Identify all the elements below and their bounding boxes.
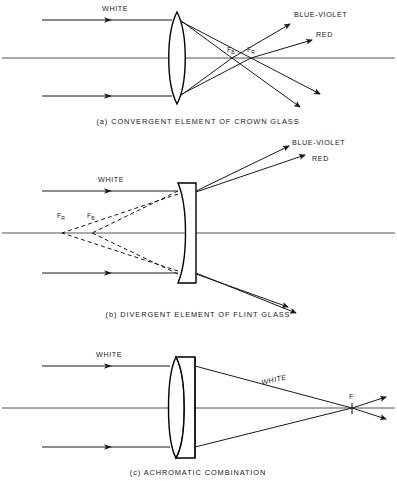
- label-blue-violet-b: BLUE-VIOLET: [292, 138, 345, 147]
- biconvex-lens-a: [169, 12, 186, 104]
- divergent-ray-red-lower-a: [251, 58, 320, 94]
- panel-c-achromatic-combination: WHITE WHITE F (c) ACHROMATIC COMBINATION: [0, 325, 397, 481]
- label-red-a: RED: [316, 30, 333, 39]
- virtual-ray-blue-upper-b: [92, 191, 178, 233]
- divergent-ray-blue-upper-a: [232, 24, 290, 58]
- virtual-ray-blue-lower-b: [92, 233, 178, 274]
- label-white-b: WHITE: [98, 175, 124, 184]
- focal-point-label-red-a: FR: [247, 46, 255, 55]
- caption-c: (c) ACHROMATIC COMBINATION: [130, 468, 266, 477]
- figure-root: WHITE BLUE-VIOLET RED FB FR (a) CONVERGE…: [0, 0, 397, 481]
- virtual-ray-red-upper-b: [62, 194, 178, 233]
- post-focus-ray-upper-c: [352, 397, 386, 408]
- exit-ray-red-upper-b: [196, 155, 305, 192]
- label-blue-violet-a: BLUE-VIOLET: [294, 10, 347, 19]
- divergent-ray-red-upper-a: [251, 40, 312, 58]
- label-white-exit-c: WHITE: [260, 372, 287, 387]
- refracted-ray-red-from-top-a: [180, 21, 251, 58]
- caption-b: (b) DIVERGENT ELEMENT OF FLINT GLASS: [106, 310, 291, 319]
- caption-a: (a) CONVERGENT ELEMENT OF CROWN GLASS: [96, 117, 299, 126]
- converging-ray-lower-c: [195, 408, 352, 447]
- panel-a-convergent-crown-glass: WHITE BLUE-VIOLET RED FB FR (a) CONVERGE…: [0, 0, 397, 135]
- virtual-ray-red-lower-b: [62, 233, 178, 271]
- label-white-incoming-c: WHITE: [96, 350, 122, 359]
- label-white-a: WHITE: [102, 4, 128, 13]
- focal-point-label-blue-a: FB: [227, 46, 235, 55]
- panel-b-divergent-flint-glass: WHITE BLUE-VIOLET RED FR FB (b) DIVERGEN…: [0, 135, 397, 325]
- refracted-ray-red-from-bottom-a: [180, 58, 251, 95]
- refracted-ray-blue-from-bottom-a: [180, 58, 232, 96]
- label-red-b: RED: [312, 154, 329, 163]
- post-focus-ray-lower-c: [352, 408, 386, 419]
- exit-ray-red-lower-b: [196, 274, 288, 307]
- focal-point-label-blue-b: FB: [87, 212, 95, 221]
- focal-point-label-red-b: FR: [57, 212, 65, 221]
- refracted-ray-blue-from-top-a: [180, 20, 232, 58]
- focal-point-label-c: F: [349, 393, 353, 400]
- exit-ray-blue-upper-b: [196, 146, 289, 191]
- converging-ray-upper-c: [195, 366, 352, 408]
